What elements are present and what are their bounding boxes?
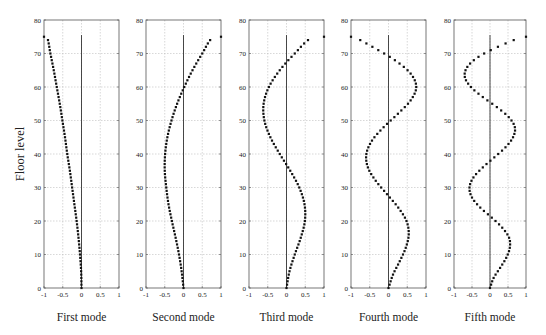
data-point bbox=[389, 196, 391, 198]
data-point bbox=[60, 109, 62, 111]
data-point bbox=[182, 284, 184, 286]
data-point bbox=[80, 263, 82, 265]
data-point bbox=[68, 163, 70, 165]
data-point bbox=[513, 39, 515, 41]
data-point bbox=[513, 123, 515, 125]
data-point bbox=[180, 93, 182, 95]
data-point bbox=[465, 79, 467, 81]
data-point bbox=[80, 280, 82, 282]
data-point bbox=[284, 62, 286, 64]
data-point bbox=[279, 153, 281, 155]
data-point bbox=[510, 140, 512, 142]
data-point bbox=[185, 83, 187, 85]
data-point bbox=[383, 190, 385, 192]
data-point bbox=[77, 237, 79, 239]
data-point bbox=[415, 89, 417, 91]
data-point bbox=[281, 66, 283, 68]
data-point bbox=[80, 274, 82, 276]
data-point bbox=[167, 203, 169, 205]
data-point bbox=[164, 153, 166, 155]
data-point bbox=[395, 203, 397, 205]
data-point bbox=[507, 143, 509, 145]
data-point bbox=[509, 240, 511, 242]
data-point bbox=[56, 89, 58, 91]
data-point bbox=[64, 136, 66, 138]
data-point bbox=[57, 93, 59, 95]
data-point bbox=[413, 93, 415, 95]
data-point bbox=[166, 196, 168, 198]
data-point bbox=[164, 173, 166, 175]
y-tick-label: 20 bbox=[239, 218, 247, 226]
data-point bbox=[164, 166, 166, 168]
x-tick-label: 1 bbox=[424, 291, 428, 299]
data-point bbox=[372, 176, 374, 178]
data-point bbox=[69, 173, 71, 175]
data-point bbox=[300, 190, 302, 192]
data-point bbox=[491, 217, 493, 219]
x-tick-label: 1 bbox=[322, 291, 326, 299]
data-point bbox=[79, 260, 81, 262]
data-point bbox=[505, 257, 507, 259]
data-point bbox=[65, 143, 67, 145]
data-point bbox=[290, 263, 292, 265]
data-point bbox=[265, 93, 267, 95]
x-tick-label: -1 bbox=[246, 291, 252, 299]
data-point bbox=[371, 46, 373, 48]
data-point bbox=[483, 210, 485, 212]
data-point bbox=[181, 277, 183, 279]
data-point bbox=[298, 186, 300, 188]
data-point bbox=[397, 207, 399, 209]
data-point bbox=[78, 247, 80, 249]
data-point bbox=[76, 223, 78, 225]
data-point bbox=[80, 270, 82, 272]
data-point bbox=[297, 243, 299, 245]
data-point bbox=[268, 86, 270, 88]
x-tick-label: 0.5 bbox=[96, 291, 105, 299]
data-point bbox=[293, 176, 295, 178]
data-point bbox=[169, 210, 171, 212]
data-point bbox=[295, 180, 297, 182]
data-point bbox=[287, 166, 289, 168]
data-point bbox=[370, 173, 372, 175]
data-point bbox=[477, 56, 479, 58]
data-point bbox=[299, 240, 301, 242]
data-point bbox=[164, 170, 166, 172]
data-point bbox=[265, 126, 267, 128]
x-tick-label: -1 bbox=[41, 291, 47, 299]
data-point bbox=[70, 180, 72, 182]
data-point bbox=[80, 284, 82, 286]
data-point bbox=[287, 277, 289, 279]
data-point bbox=[403, 250, 405, 252]
data-point bbox=[303, 42, 305, 44]
data-point bbox=[177, 247, 179, 249]
panel-2: -1-0.500.5101020304050607080Second mode bbox=[136, 17, 223, 324]
y-tick-label: 60 bbox=[34, 84, 42, 92]
data-point bbox=[508, 237, 510, 239]
data-point bbox=[274, 76, 276, 78]
data-point bbox=[174, 109, 176, 111]
data-point bbox=[51, 59, 53, 61]
data-point bbox=[207, 42, 209, 44]
data-point bbox=[62, 126, 64, 128]
data-point bbox=[467, 83, 469, 85]
data-point bbox=[263, 116, 265, 118]
data-point bbox=[366, 150, 368, 152]
data-point bbox=[199, 56, 201, 58]
data-point bbox=[50, 56, 52, 58]
data-point bbox=[475, 173, 477, 175]
y-tick-label: 40 bbox=[444, 151, 452, 159]
data-point bbox=[179, 96, 181, 98]
y-tick-label: 50 bbox=[239, 117, 247, 125]
y-axis-label: Floor level bbox=[13, 126, 27, 181]
data-point bbox=[175, 106, 177, 108]
y-tick-label: 70 bbox=[239, 50, 247, 58]
data-point bbox=[406, 243, 408, 245]
data-point bbox=[501, 263, 503, 265]
data-point bbox=[173, 230, 175, 232]
data-point bbox=[400, 210, 402, 212]
data-point bbox=[405, 220, 407, 222]
data-point bbox=[469, 193, 471, 195]
y-tick-label: 20 bbox=[34, 218, 42, 226]
y-tick-label: 0 bbox=[38, 285, 42, 293]
data-point bbox=[501, 227, 503, 229]
